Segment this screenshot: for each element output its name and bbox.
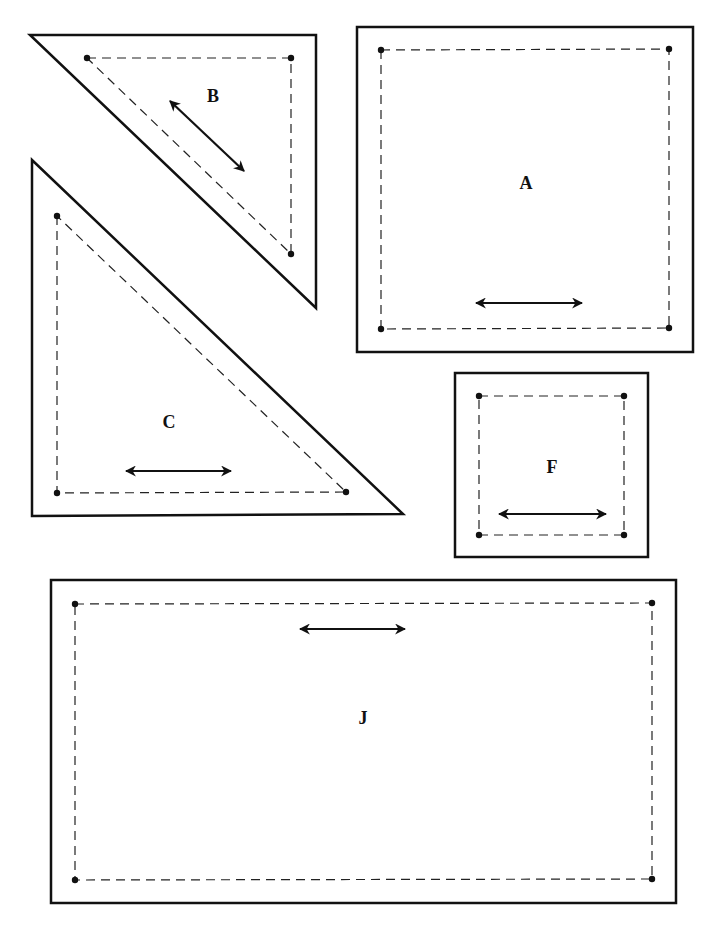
corner-dot-icon: [288, 55, 294, 61]
corner-dot-icon: [72, 877, 78, 883]
corner-dot-icon: [649, 600, 655, 606]
corner-dot-icon: [288, 251, 294, 257]
corner-dot-icon: [476, 532, 482, 538]
corner-dot-icon: [621, 532, 627, 538]
piece-label: B: [207, 86, 219, 106]
piece-label: A: [520, 173, 533, 193]
pattern-sheet: BCAFJ: [0, 0, 714, 927]
corner-dot-icon: [378, 326, 384, 332]
piece-a: A: [357, 27, 693, 352]
corner-dot-icon: [54, 490, 60, 496]
corner-dot-icon: [649, 876, 655, 882]
corner-dot-icon: [476, 393, 482, 399]
piece-label: F: [547, 457, 558, 477]
corner-dot-icon: [666, 325, 672, 331]
corner-dot-icon: [666, 46, 672, 52]
corner-dot-icon: [84, 55, 90, 61]
corner-dot-icon: [54, 213, 60, 219]
piece-label: C: [163, 412, 176, 432]
piece-j: J: [51, 580, 676, 903]
corner-dot-icon: [621, 393, 627, 399]
piece-label: J: [359, 708, 368, 728]
corner-dot-icon: [72, 601, 78, 607]
corner-dot-icon: [343, 489, 349, 495]
corner-dot-icon: [378, 47, 384, 53]
piece-f: F: [455, 373, 648, 557]
